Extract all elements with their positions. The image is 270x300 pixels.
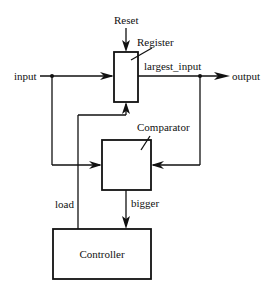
bigger-arrow: [122, 190, 130, 229]
output-line: [138, 72, 230, 80]
bigger-label: bigger: [131, 197, 159, 209]
load-label: load: [55, 198, 74, 210]
controller-label: Controller: [79, 248, 125, 260]
block-diagram: Reset Register input largest_input outpu…: [0, 0, 270, 300]
input-label: input: [14, 70, 37, 82]
largest-input-label: largest_input: [144, 60, 201, 72]
comparator-label: Comparator: [137, 121, 190, 133]
register-label: Register: [137, 36, 174, 48]
reset-label: Reset: [114, 14, 138, 26]
output-label: output: [232, 70, 260, 82]
register-block: [114, 52, 138, 102]
input-to-comparator-line: [52, 76, 102, 169]
reset-arrow: [122, 28, 130, 52]
comparator-block: [102, 140, 151, 190]
